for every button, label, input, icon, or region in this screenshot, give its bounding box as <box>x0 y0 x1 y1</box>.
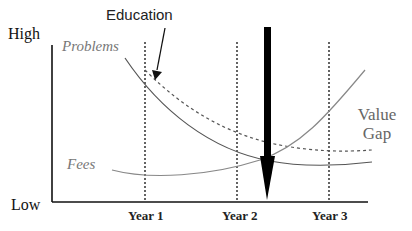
fees-curve <box>112 70 365 175</box>
value-gap-arrow-head <box>260 156 275 200</box>
education-label: Education <box>106 6 173 23</box>
x-tick-year3: Year 3 <box>312 208 348 224</box>
x-tick-year1: Year 1 <box>128 208 164 224</box>
x-tick-year2: Year 2 <box>222 208 258 224</box>
y-axis-low-label: Low <box>11 196 40 214</box>
education-arrow-shaft <box>157 28 165 70</box>
y-axis-high-label: High <box>8 25 40 43</box>
education-curve <box>145 70 372 151</box>
education-arrow-head <box>152 70 162 80</box>
diagram-canvas <box>0 0 412 231</box>
value-gap-arrow-shaft <box>264 27 271 157</box>
fees-label: Fees <box>67 156 95 173</box>
problems-label: Problems <box>62 38 119 55</box>
value-gap-label: Value Gap <box>352 105 402 143</box>
problems-curve <box>125 58 372 165</box>
value-gap-line1: Value <box>352 105 402 124</box>
value-gap-line2: Gap <box>352 124 402 143</box>
